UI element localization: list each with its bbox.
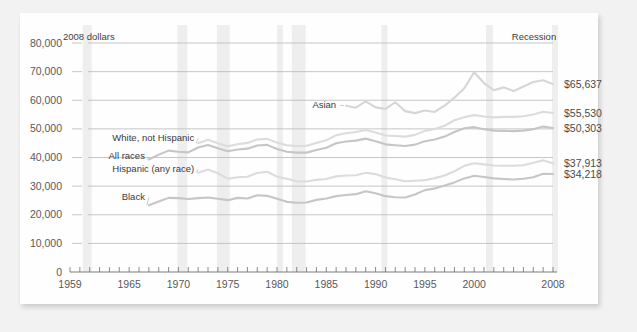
recession-annotation-label: Recession [512,31,556,42]
y-axis-units-label: 2008 dollars [63,31,115,42]
y-axis-tick-label: 30,000 [30,180,62,192]
y-axis-tick-label: 40,000 [30,151,62,163]
x-axis-tick-labels: 1959196519701975198019851990199520002008 [58,278,565,290]
series-end-value-label: $55,530 [564,107,602,119]
series-end-value-label: $65,637 [564,78,602,90]
x-axis-tick-label: 2008 [541,278,565,290]
series-line [346,72,553,113]
series-inline-label: Asian [312,99,336,110]
y-axis-tick-label: 70,000 [30,65,62,77]
x-axis-tick-label: 1990 [364,278,388,290]
series-inline-label: All races [108,150,145,161]
leader-lines [147,105,344,205]
series-end-value-label: $34,218 [564,168,602,180]
x-axis-tick-label: 1995 [413,278,437,290]
series-inline-label: Hispanic (any race) [112,163,194,174]
x-axis-tick-label: 2000 [462,278,486,290]
x-axis-tick-label: 1975 [216,278,240,290]
y-axis-tick-label: 10,000 [30,237,62,249]
x-axis-tick-label: 1959 [58,278,82,290]
y-axis-tick-labels: 010,00020,00030,00040,00050,00060,00070,… [30,37,62,278]
recession-band [177,25,187,272]
x-axis-tick-label: 1985 [315,278,339,290]
figure-root: 010,00020,00030,00040,00050,00060,00070,… [0,0,637,332]
y-axis-tick-label: 0 [56,266,62,278]
recession-band [381,25,387,272]
series-inline-label: Black [122,191,145,202]
y-axis-tick-label: 80,000 [30,37,62,49]
y-axis-tick-label: 50,000 [30,122,62,134]
end-value-labels: $65,637$55,530$50,303$37,913$34,218 [564,78,602,180]
income-by-race-line-chart: 010,00020,00030,00040,00050,00060,00070,… [0,0,637,332]
series-end-value-label: $50,303 [564,122,602,134]
y-axis-tick-label: 20,000 [30,208,62,220]
recession-band [486,25,493,272]
x-axis-tick-label: 1970 [167,278,191,290]
label-leader-line [147,197,149,205]
y-axis-tick-label: 60,000 [30,94,62,106]
recession-band [552,25,558,272]
series-inline-label: White, not Hispanic [112,132,194,143]
x-axis-tick-label: 1965 [117,278,141,290]
x-axis [70,267,557,272]
recession-band [292,25,306,272]
recession-band [83,25,92,272]
x-axis-tick-label: 1980 [265,278,289,290]
